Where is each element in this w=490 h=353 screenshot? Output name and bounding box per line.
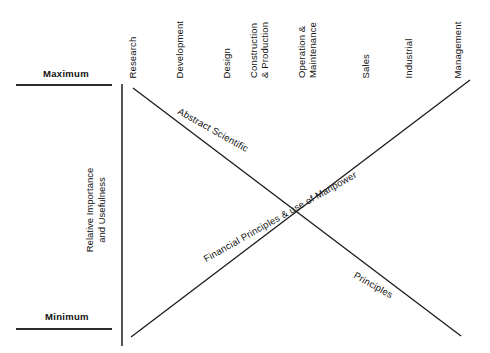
diagram-canvas: Research Development Design Construction… [0,0,490,353]
column-header-sales: Sales [361,53,372,78]
y-axis-caption: Relative Importance and Usefulness [84,130,108,290]
column-header-research: Research [128,36,139,78]
column-header-design: Design [222,48,233,78]
column-header-industrial: Industrial [404,38,415,78]
scale-maximum-label: Maximum [43,68,89,79]
diagram-lines [0,0,490,353]
column-header-development: Development [175,20,186,78]
column-header-management: Management [453,21,464,78]
column-header-construction-production: Construction & Production [249,22,270,78]
scale-minimum-label: Minimum [45,311,89,322]
column-header-operation-maintenance: Operation & Maintenance [297,22,318,78]
